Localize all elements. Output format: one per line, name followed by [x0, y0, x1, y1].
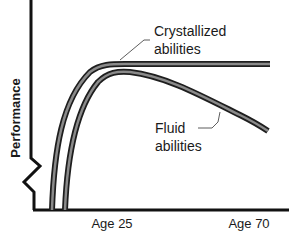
fluid-label-line1: Fluid [155, 120, 185, 136]
crystallized-leader-line [120, 40, 150, 60]
y-axis [24, 0, 40, 210]
fluid-label-line2: abilities [155, 138, 202, 154]
fluid-leader-line [198, 112, 220, 128]
crystallized-label-line2: abilities [154, 41, 201, 57]
age-abilities-chart: Performance Crystallized abilities Fluid… [0, 0, 289, 235]
x-tick-age-70: Age 70 [228, 216, 269, 231]
x-tick-age-25: Age 25 [91, 216, 132, 231]
crystallized-abilities-curve [52, 64, 270, 210]
crystallized-label-line1: Crystallized [154, 23, 226, 39]
y-axis-label: Performance [8, 78, 23, 157]
